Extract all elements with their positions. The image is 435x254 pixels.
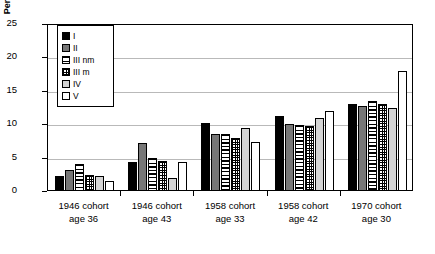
- x-axis-category-label: 1970 cohortage 30: [334, 200, 418, 225]
- y-axis-title: Percentage: [2, 0, 12, 14]
- bar: [388, 108, 397, 192]
- x-axis-label-line: 1958 cohort: [261, 200, 345, 213]
- bar: [65, 170, 74, 191]
- y-axis-tick-mark: [42, 124, 47, 125]
- bar: [325, 111, 334, 191]
- bar: [201, 123, 210, 191]
- y-axis-tick-mark: [42, 57, 47, 58]
- bar: [378, 104, 387, 191]
- bar: [231, 138, 240, 191]
- y-axis-tick-mark: [42, 191, 47, 192]
- x-axis-label-line: age 42: [261, 213, 345, 226]
- bar-group: [55, 24, 115, 191]
- bar: [178, 162, 187, 191]
- x-axis-category-label: 1958 cohortage 42: [261, 200, 345, 225]
- x-axis-tick-mark: [267, 191, 268, 196]
- bar: [251, 142, 260, 191]
- bar: [148, 158, 157, 191]
- bar: [138, 143, 147, 191]
- x-axis-label-line: age 33: [188, 213, 272, 226]
- bar-group: [128, 24, 188, 191]
- bar-group: [275, 24, 335, 191]
- y-axis-tick-label: 10: [0, 118, 17, 128]
- bar: [305, 126, 314, 191]
- x-axis-label-line: age 36: [42, 213, 126, 226]
- bar: [211, 134, 220, 191]
- bar: [95, 176, 104, 191]
- bar: [75, 164, 84, 191]
- x-axis-tick-mark: [193, 191, 194, 196]
- x-axis-category-label: 1946 cohortage 36: [42, 200, 126, 225]
- bar: [221, 134, 230, 191]
- y-axis-tick-mark: [42, 158, 47, 159]
- x-axis-category-label: 1958 cohortage 33: [188, 200, 272, 225]
- y-axis-tick-label: 0: [0, 185, 17, 195]
- bar: [315, 118, 324, 191]
- bar: [398, 71, 407, 191]
- y-axis-tick-mark: [42, 91, 47, 92]
- bar: [348, 104, 357, 191]
- x-axis-label-line: 1946 cohort: [115, 200, 199, 213]
- y-axis-tick-label: 5: [0, 152, 17, 162]
- bar-group: [201, 24, 261, 191]
- x-axis-tick-mark: [120, 191, 121, 196]
- x-axis-label-line: 1958 cohort: [188, 200, 272, 213]
- bar: [85, 175, 94, 191]
- bar: [105, 181, 114, 191]
- x-axis-label-line: age 43: [115, 213, 199, 226]
- bar: [275, 116, 284, 191]
- x-axis-category-label: 1946 cohortage 43: [115, 200, 199, 225]
- y-axis-tick-label: 25: [0, 18, 17, 28]
- y-axis-tick-mark: [42, 24, 47, 25]
- y-axis-tick-label: 20: [0, 51, 17, 61]
- bar-chart: Percentage IIIIII nmIII mIVV 05101520251…: [0, 0, 435, 254]
- bar: [168, 178, 177, 191]
- bar: [55, 176, 64, 191]
- bar-group: [348, 24, 408, 191]
- bar: [158, 161, 167, 191]
- x-axis-tick-mark: [340, 191, 341, 196]
- x-axis-label-line: 1946 cohort: [42, 200, 126, 213]
- bar: [295, 125, 304, 191]
- bar: [241, 128, 250, 191]
- bar: [358, 106, 367, 192]
- x-axis-label-line: age 30: [334, 213, 418, 226]
- bar: [368, 101, 377, 191]
- bar: [285, 124, 294, 191]
- y-axis-tick-label: 15: [0, 85, 17, 95]
- bar: [128, 162, 137, 191]
- x-axis-label-line: 1970 cohort: [334, 200, 418, 213]
